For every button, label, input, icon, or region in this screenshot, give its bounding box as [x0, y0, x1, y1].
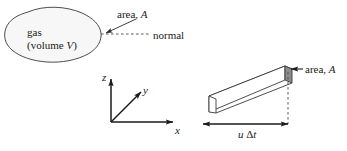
gas-label-line1: gas: [27, 26, 42, 38]
gas-region-label: gas (volume V): [27, 26, 77, 51]
axis-y-line: [111, 92, 141, 122]
physics-diagram-gas-flux: gas (volume V) area, A normal area, A u …: [0, 0, 347, 151]
prism-right-end-face-area-a: [285, 66, 292, 83]
area-a-label-right: area, A: [305, 63, 336, 76]
area-left-leader-arrow: [106, 19, 136, 33]
prism-left-end-face: [209, 96, 216, 113]
normal-label: normal: [153, 29, 184, 42]
axis-label-z: z: [102, 71, 106, 83]
axis-label-y: y: [143, 84, 148, 96]
area-a-label-left: area, A: [117, 8, 148, 21]
axis-label-x: x: [175, 124, 180, 136]
diagram-vector-canvas: [0, 0, 347, 151]
gas-label-volume: (volume V): [27, 39, 77, 52]
prism-front-face: [209, 66, 285, 112]
udt-dimension-label: u Δt: [238, 128, 256, 141]
